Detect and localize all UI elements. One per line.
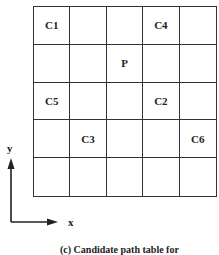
y-axis-label: y [7, 142, 13, 154]
grid-cell: C5 [34, 83, 70, 121]
grid-cell [143, 120, 179, 158]
grid-cell [180, 83, 216, 121]
grid-cell [143, 45, 179, 83]
grid-cell [70, 7, 106, 45]
grid-cell: C2 [143, 83, 179, 121]
grid-cell [180, 7, 216, 45]
grid-cell [180, 158, 216, 196]
grid-cell: C4 [143, 7, 179, 45]
grid-cell [70, 83, 106, 121]
grid-cell: P [107, 45, 143, 83]
grid-cell [143, 158, 179, 196]
grid-cell [107, 7, 143, 45]
x-axis-label: x [68, 216, 74, 228]
grid-cell: C6 [180, 120, 216, 158]
grid-cell: C1 [34, 7, 70, 45]
grid-cell [180, 45, 216, 83]
grid-cell [107, 83, 143, 121]
figure-caption: (c) Candidate path table for [60, 244, 179, 255]
grid-cell [34, 45, 70, 83]
grid-cell [107, 120, 143, 158]
grid-cell [70, 45, 106, 83]
grid-cell [107, 158, 143, 196]
